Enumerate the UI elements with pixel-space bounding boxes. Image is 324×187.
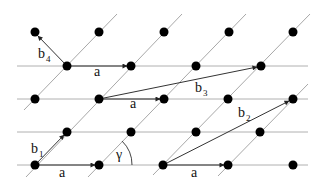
- diagonal-line-2: [26, 14, 182, 177]
- label-b2-subscript: 2: [246, 113, 251, 123]
- label-a-bottom-right: a: [191, 165, 198, 180]
- diagonal-line-4: [153, 14, 310, 175]
- lattice-point: [127, 62, 136, 71]
- lattice-point: [63, 62, 72, 71]
- lattice-point: [127, 128, 136, 137]
- label-a-bottom-left: a: [59, 165, 66, 180]
- gamma-angle-arc: [122, 141, 132, 165]
- lattice-point: [225, 28, 234, 37]
- label-b1-subscript: 1: [39, 149, 44, 159]
- label-b4-subscript: 4: [46, 54, 51, 64]
- lattice-point: [289, 28, 298, 37]
- horizontal-lines: [17, 66, 308, 165]
- label-b3: b: [195, 80, 202, 95]
- lattice-point: [224, 95, 233, 104]
- label-b4: b: [38, 46, 45, 61]
- vector-b2: [163, 101, 289, 165]
- lattice-point: [192, 128, 201, 137]
- lattice-point: [289, 161, 298, 170]
- lattice-point: [224, 161, 233, 170]
- label-gamma: γ: [115, 147, 122, 162]
- label-b3-subscript: 3: [203, 88, 208, 98]
- label-b2: b: [238, 105, 245, 120]
- label-a-middle: a: [130, 96, 137, 111]
- lattice-point: [95, 161, 104, 170]
- lattice-point: [95, 95, 104, 104]
- lattice-point: [31, 95, 40, 104]
- lattice-diagram: a a a a b 1 b 2 b 3 b 4 γ: [0, 0, 324, 187]
- lattice-point: [289, 95, 298, 104]
- lattice-point: [31, 161, 40, 170]
- label-b1: b: [31, 141, 38, 156]
- lattice-point: [63, 128, 72, 137]
- lattice-point: [95, 28, 104, 37]
- lattice-point: [257, 62, 266, 71]
- lattice-point: [192, 62, 201, 71]
- vector-b3: [99, 67, 257, 99]
- lattice-point: [160, 28, 169, 37]
- label-a-top: a: [94, 64, 101, 79]
- lattice-point: [256, 128, 265, 137]
- lattice-point: [159, 161, 168, 170]
- lattice-point: [31, 28, 40, 37]
- diagonal-line-1: [24, 14, 117, 110]
- diagonal-lines: [24, 14, 310, 177]
- lattice-point: [160, 95, 169, 104]
- diagonal-line-3: [88, 14, 246, 177]
